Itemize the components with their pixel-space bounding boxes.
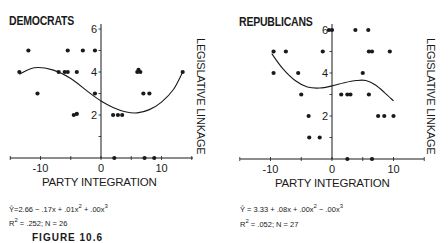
fit-statistics: R2 = .052; N = 27 bbox=[240, 218, 298, 228]
data-point bbox=[120, 113, 124, 117]
x-axis-label: PARTY INTEGRATION bbox=[275, 177, 390, 189]
regression-curve bbox=[272, 54, 394, 101]
y-tick-label: 2 bbox=[91, 109, 97, 121]
x-axis-label: PARTY INTEGRATION bbox=[42, 176, 157, 188]
figure-caption: FIGURE 10.6 bbox=[32, 232, 103, 243]
data-point bbox=[112, 156, 116, 160]
regression-equation: Ŷ = 3.33 + .08x + .00x2 − .00x3 bbox=[240, 203, 343, 213]
eq-exponent: 3 bbox=[340, 203, 343, 209]
data-point bbox=[388, 49, 392, 53]
eq-text: − .00x bbox=[317, 205, 340, 214]
data-point bbox=[35, 91, 39, 95]
y-tick-label: 6 bbox=[91, 23, 97, 35]
data-point bbox=[321, 49, 325, 53]
data-point bbox=[147, 91, 151, 95]
data-point bbox=[345, 157, 349, 161]
y-axis-label: LEGISLATIVE LINKAGE bbox=[425, 38, 437, 154]
x-tick-label: 10 bbox=[387, 163, 399, 175]
y-axis-label: LEGISLATIVE LINKAGE bbox=[195, 38, 207, 154]
data-point bbox=[142, 156, 146, 160]
x-tick-label: -10 bbox=[263, 163, 279, 175]
x-tick-label: -10 bbox=[33, 162, 49, 174]
eq-text: + .00x bbox=[82, 205, 105, 214]
x-tick-label: 10 bbox=[155, 162, 167, 174]
r-squared-value: = .052; N = 27 bbox=[249, 220, 299, 229]
data-point bbox=[138, 70, 142, 74]
democrats-panel: DEMOCRATS -10010246 PARTY INTEGRATION LE… bbox=[0, 0, 224, 240]
fit-statistics: R2 = .252; N = 26 bbox=[9, 217, 67, 227]
data-point bbox=[141, 91, 145, 95]
data-point bbox=[367, 92, 371, 96]
data-point bbox=[111, 113, 115, 117]
data-point bbox=[370, 49, 374, 53]
eq-text: =2.66 − .17x + .01x bbox=[14, 205, 78, 214]
data-point bbox=[75, 112, 79, 116]
r-squared-value: = .252; N = 26 bbox=[18, 219, 68, 228]
data-point bbox=[348, 92, 352, 96]
data-point bbox=[17, 70, 21, 74]
eq-text: = 3.33 + .08x + .00x bbox=[245, 205, 314, 214]
data-point bbox=[307, 114, 311, 118]
y-tick-label: 4 bbox=[91, 66, 97, 78]
data-point bbox=[93, 48, 97, 52]
data-point bbox=[370, 157, 374, 161]
data-point bbox=[296, 71, 300, 75]
data-point bbox=[361, 71, 365, 75]
data-point bbox=[57, 70, 61, 74]
data-point bbox=[116, 113, 120, 117]
data-point bbox=[66, 70, 70, 74]
data-point bbox=[152, 156, 156, 160]
x-tick-label: 0 bbox=[98, 162, 104, 174]
data-point bbox=[307, 135, 311, 139]
x-tick-label: 0 bbox=[329, 163, 335, 175]
data-point bbox=[284, 49, 288, 53]
data-point bbox=[382, 114, 386, 118]
data-point bbox=[66, 48, 70, 52]
data-point bbox=[391, 114, 395, 118]
data-point bbox=[330, 28, 334, 32]
data-point bbox=[339, 92, 343, 96]
data-point bbox=[366, 28, 370, 32]
data-point bbox=[75, 70, 79, 74]
data-point bbox=[318, 135, 322, 139]
eq-exponent: 3 bbox=[105, 203, 108, 209]
regression-equation: Ŷ=2.66 − .17x + .01x2 + .00x3 bbox=[9, 203, 108, 213]
y-tick-label: 2 bbox=[322, 110, 328, 122]
data-point bbox=[271, 49, 275, 53]
data-point bbox=[26, 48, 30, 52]
data-point bbox=[93, 91, 97, 95]
data-point bbox=[271, 71, 275, 75]
y-tick-label: 4 bbox=[322, 67, 328, 79]
data-point bbox=[353, 28, 357, 32]
republicans-panel: REPUBLICANS -10010246 PARTY INTEGRATION … bbox=[224, 0, 448, 240]
data-point bbox=[376, 114, 380, 118]
data-point bbox=[81, 48, 85, 52]
data-point bbox=[299, 92, 303, 96]
data-point bbox=[181, 70, 185, 74]
